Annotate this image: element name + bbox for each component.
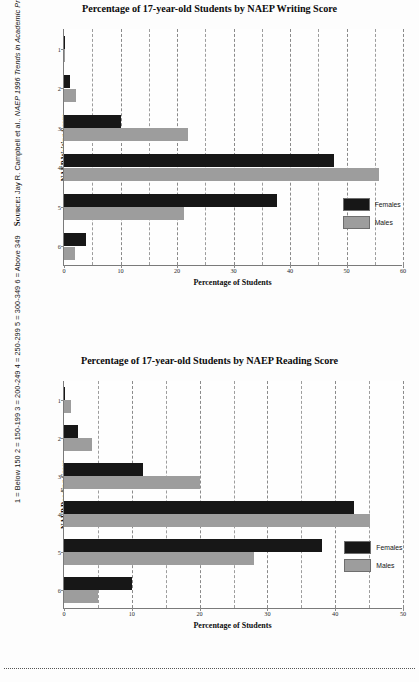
legend-label-females: Females xyxy=(376,544,402,551)
gridline-major xyxy=(177,29,178,265)
chart-reading: Percentage of 17-year-old Students by NA… xyxy=(0,352,419,672)
xtick-mark xyxy=(132,608,133,611)
xtick-label-20: 20 xyxy=(197,610,203,617)
bar-writing-males-score-1 xyxy=(64,49,65,62)
chart-writing-legend: Females Males xyxy=(343,198,401,234)
xtick-label-10: 10 xyxy=(117,267,123,274)
legend-item-females: Females xyxy=(344,541,402,554)
xtick-label-40: 40 xyxy=(332,610,338,617)
chart-writing-title: Percentage of 17-year-old Students by NA… xyxy=(0,0,419,14)
bar-writing-females-score-6 xyxy=(64,233,86,246)
xtick-label-40: 40 xyxy=(287,267,293,274)
xtick-mark xyxy=(347,265,348,268)
chart-writing-xaxis-title: Percentage of Students xyxy=(63,278,402,287)
xtick-mark xyxy=(403,608,404,611)
gridline-minor xyxy=(262,29,263,265)
ytick-mark xyxy=(61,514,64,515)
gridline-major xyxy=(121,29,122,265)
bar-writing-females-score-5 xyxy=(64,194,277,207)
xtick-mark xyxy=(290,265,291,268)
bar-reading-males-score-1 xyxy=(64,400,71,413)
legend-label-males: Males xyxy=(375,219,393,226)
legend-item-females: Females xyxy=(343,198,401,211)
gridline-major xyxy=(403,381,404,608)
bar-reading-females-score-5 xyxy=(64,539,322,552)
xtick-label-50: 50 xyxy=(343,267,349,274)
legend-swatch-females-icon xyxy=(344,541,371,554)
legend-label-males: Males xyxy=(376,562,394,569)
bar-reading-females-score-6 xyxy=(64,577,132,590)
xtick-label-60: 60 xyxy=(400,267,406,274)
gridline-major xyxy=(234,29,235,265)
bar-reading-males-score-4 xyxy=(64,514,370,527)
bar-writing-males-score-6 xyxy=(64,247,75,260)
gridline-minor xyxy=(205,29,206,265)
chart-reading-legend: Females Males xyxy=(344,541,402,577)
chart-reading-title: Percentage of 17-year-old Students by NA… xyxy=(0,352,419,366)
xtick-label-20: 20 xyxy=(174,267,180,274)
ytick-mark xyxy=(61,590,64,591)
figure-page: 1 = Below 150 2 = 150-199 3 = 200-249 4 … xyxy=(0,0,419,682)
xtick-mark xyxy=(64,608,65,611)
xtick-mark xyxy=(267,608,268,611)
bar-writing-females-score-2 xyxy=(64,75,70,88)
bar-writing-females-score-1 xyxy=(64,36,65,49)
xtick-label-30: 30 xyxy=(230,267,236,274)
bar-reading-males-score-3 xyxy=(64,476,200,489)
gridline-major xyxy=(335,381,336,608)
gridline-minor xyxy=(98,381,99,608)
legend-swatch-males-icon xyxy=(344,559,371,572)
gridline-minor xyxy=(234,381,235,608)
legend-label-females: Females xyxy=(375,201,401,208)
gridline-minor xyxy=(301,381,302,608)
xtick-label-30: 30 xyxy=(264,610,270,617)
gridline-minor xyxy=(166,381,167,608)
gridline-minor xyxy=(318,29,319,265)
xtick-mark xyxy=(64,265,65,268)
legend-swatch-females-icon xyxy=(343,198,370,211)
xtick-mark xyxy=(177,265,178,268)
legend-item-males: Males xyxy=(343,216,401,229)
ytick-mark xyxy=(61,88,64,89)
xtick-mark xyxy=(403,265,404,268)
chart-reading-xaxis-title: Percentage of Students xyxy=(63,621,402,630)
bar-reading-females-score-4 xyxy=(64,501,354,514)
legend-swatch-males-icon xyxy=(343,216,370,229)
ytick-mark xyxy=(61,49,64,50)
xtick-mark xyxy=(234,265,235,268)
footer-dotted-rule xyxy=(4,668,415,669)
ytick-mark xyxy=(61,246,64,247)
gridline-minor xyxy=(92,29,93,265)
ytick-mark xyxy=(61,167,64,168)
ytick-mark xyxy=(61,128,64,129)
bar-writing-males-score-4 xyxy=(64,168,379,181)
gridline-minor xyxy=(149,29,150,265)
bar-reading-females-score-1 xyxy=(64,387,65,400)
legend-item-males: Males xyxy=(344,559,402,572)
bar-reading-males-score-5 xyxy=(64,552,254,565)
ytick-mark xyxy=(61,552,64,553)
bar-writing-females-score-3 xyxy=(64,115,121,128)
bar-reading-females-score-3 xyxy=(64,463,143,476)
ytick-mark xyxy=(61,476,64,477)
ytick-mark xyxy=(61,207,64,208)
ytick-mark xyxy=(61,438,64,439)
gridline-major xyxy=(290,29,291,265)
chart-writing: Percentage of 17-year-old Students by NA… xyxy=(0,0,419,330)
xtick-label-10: 10 xyxy=(129,610,135,617)
xtick-mark xyxy=(335,608,336,611)
bar-reading-males-score-6 xyxy=(64,590,98,603)
bar-writing-females-score-4 xyxy=(64,154,334,167)
bar-writing-males-score-3 xyxy=(64,128,188,141)
gridline-major xyxy=(267,381,268,608)
xtick-mark xyxy=(200,608,201,611)
bar-writing-males-score-2 xyxy=(64,89,76,102)
gridline-major xyxy=(403,29,404,265)
xtick-mark xyxy=(121,265,122,268)
gridline-major xyxy=(200,381,201,608)
bar-reading-females-score-2 xyxy=(64,425,78,438)
gridline-major xyxy=(132,381,133,608)
xtick-label-50: 50 xyxy=(400,610,406,617)
xtick-label-0: 0 xyxy=(62,610,65,617)
ytick-mark xyxy=(61,400,64,401)
